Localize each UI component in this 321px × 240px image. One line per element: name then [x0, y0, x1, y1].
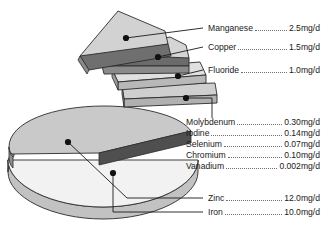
callout-iodine: Iodine 0.14mg/d: [186, 128, 320, 138]
callout-value-copper: 1.5mg/d: [289, 42, 320, 52]
callout-value-vanadium: 0.002mg/d: [279, 161, 320, 171]
dot-molybdenum: [183, 95, 189, 101]
leader-dots: [228, 151, 283, 158]
leader-dots: [255, 24, 287, 31]
leader-dots: [226, 194, 282, 201]
callout-manganese: Manganese 2.5mg/d: [208, 23, 320, 33]
callout-value-molybdenum: 0.30mg/d: [284, 117, 320, 127]
pie-body: [8, 106, 198, 219]
callout-label-molybdenum: Molybdenum: [186, 117, 235, 127]
leader-dots: [226, 162, 277, 169]
callout-chromium: Chromium 0.10mg/d: [186, 150, 320, 160]
callout-fluoride: Fluoride 1.0mg/d: [208, 65, 320, 75]
slab-copper-front: [102, 66, 189, 74]
callout-value-zinc: 12.0mg/d: [284, 193, 320, 203]
callout-label-chromium: Chromium: [186, 150, 226, 160]
callout-selenium: Selenium 0.07mg/d: [186, 139, 320, 149]
chart-canvas: Manganese 2.5mg/d Copper 1.5mg/d Fluorid…: [0, 0, 321, 240]
callout-label-manganese: Manganese: [208, 23, 253, 33]
leader-dots: [225, 208, 282, 215]
callout-label-iodine: Iodine: [186, 128, 209, 138]
leader-dots: [224, 140, 282, 147]
dot-iron: [110, 170, 116, 176]
callout-value-iron: 10.0mg/d: [284, 207, 320, 217]
callout-iron: Iron 10.0mg/d: [208, 207, 320, 217]
leader-dots: [237, 118, 282, 125]
callout-copper: Copper 1.5mg/d: [208, 42, 320, 52]
leader-dots: [241, 66, 287, 73]
callout-label-iron: Iron: [208, 207, 223, 217]
callout-value-iodine: 0.14mg/d: [284, 128, 320, 138]
callout-value-selenium: 0.07mg/d: [284, 139, 320, 149]
dot-manganese: [123, 35, 129, 41]
callout-value-chromium: 0.10mg/d: [284, 150, 320, 160]
callout-molybdenum: Molybdenum 0.30mg/d: [186, 117, 320, 127]
leader-dots: [211, 129, 282, 136]
dot-fluoride: [175, 73, 181, 79]
callout-label-selenium: Selenium: [186, 139, 222, 149]
callout-label-fluoride: Fluoride: [208, 65, 239, 75]
callout-zinc: Zinc 12.0mg/d: [208, 193, 320, 203]
callout-value-manganese: 2.5mg/d: [289, 23, 320, 33]
callout-label-zinc: Zinc: [208, 193, 224, 203]
callout-value-fluoride: 1.0mg/d: [289, 65, 320, 75]
leader-dots: [238, 43, 287, 50]
callout-label-vanadium: Vanadium: [186, 161, 224, 171]
dot-copper: [155, 54, 161, 60]
callout-vanadium: Vanadium 0.002mg/d: [186, 161, 320, 171]
dot-zinc: [65, 139, 71, 145]
callout-label-copper: Copper: [208, 42, 236, 52]
